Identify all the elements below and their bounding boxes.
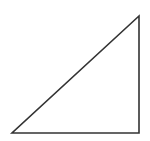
diagram-canvas xyxy=(0,0,150,141)
right-triangle-shape xyxy=(12,16,139,133)
